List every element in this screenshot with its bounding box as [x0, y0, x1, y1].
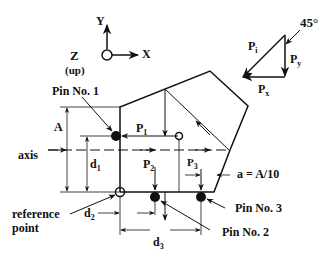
reference-label-line1: reference [12, 207, 60, 221]
axis-line: axis [18, 148, 230, 162]
pin-1-group: Pin No. 1 P1 [52, 84, 183, 192]
py-label: Py [290, 52, 301, 68]
pin-2-icon [150, 192, 160, 202]
dim-d1-label: d1 [90, 157, 101, 173]
p3-label: P3 [187, 156, 198, 171]
dimensions-horizontal: d2 d3 [84, 196, 201, 251]
px-label: Px [258, 82, 269, 98]
pin-1-label: Pin No. 1 [52, 84, 99, 98]
pi-label: Pi [248, 39, 258, 55]
diagonal-line [165, 89, 229, 150]
x-axis-label: X [142, 47, 151, 61]
pin-1-icon [111, 131, 121, 141]
y-axis-label: Y [96, 14, 105, 28]
coordinate-system: Y X Z (up) [65, 14, 151, 77]
axis-label: axis [18, 148, 38, 162]
pin-3-leader [207, 199, 225, 208]
dim-A-label: A [54, 120, 63, 134]
p1-label: P1 [136, 121, 147, 137]
dim-d3-label: d3 [153, 235, 164, 251]
pin-1-leader [82, 97, 112, 131]
angle-indicator-icon [286, 30, 300, 44]
angle-label: 45° [300, 15, 318, 30]
reference-point-group: reference point [12, 188, 125, 236]
pin-3-group: P3 Pin No. 3 a = A/10 [185, 156, 282, 215]
dim-d2-label: d2 [84, 206, 95, 222]
z-axis-circle-icon [102, 50, 112, 60]
pin-2-leader [161, 201, 210, 230]
p2-label: P2 [143, 157, 154, 173]
reference-label-line2: point [12, 221, 39, 235]
fixture-diagram: Y X Z (up) 45° Pi Py Px axis Pin No. 1 P [0, 0, 335, 255]
diagonal-arrow-icon [196, 121, 210, 135]
z-axis-label: Z [70, 48, 79, 63]
pin-3-icon [196, 192, 206, 202]
z-axis-note: (up) [65, 64, 85, 77]
reference-leader [70, 195, 115, 214]
pin-2-label: Pin No. 2 [222, 225, 269, 239]
pin-3-label: Pin No. 3 [235, 201, 282, 215]
force-triangle: 45° Pi Py Px [243, 15, 318, 98]
a-note-label: a = A/10 [237, 167, 279, 181]
